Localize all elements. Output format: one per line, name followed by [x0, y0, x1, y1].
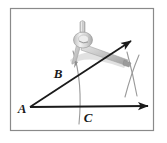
ray-AC-horizontal — [30, 106, 148, 107]
geometry-figure: A B C — [0, 0, 167, 143]
point-label-A: A — [17, 101, 27, 116]
figure-container: A B C — [0, 0, 167, 143]
point-label-C: C — [84, 110, 93, 125]
point-label-B: B — [53, 66, 63, 81]
